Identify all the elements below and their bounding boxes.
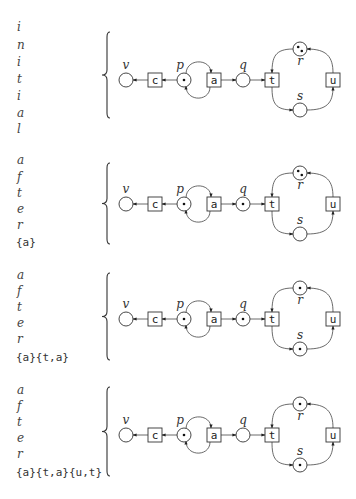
place-label: v bbox=[123, 182, 130, 196]
token bbox=[183, 434, 186, 437]
curly-brace bbox=[102, 387, 110, 476]
token bbox=[301, 50, 304, 53]
transition-label: c bbox=[152, 74, 159, 87]
arc-a-to-p bbox=[186, 210, 210, 222]
place-label: r bbox=[297, 409, 304, 423]
arc-u-to-r bbox=[307, 49, 333, 73]
transition-label: u bbox=[330, 198, 337, 211]
panel-title-letter: e bbox=[17, 431, 24, 445]
panel-title-letter: t bbox=[17, 72, 22, 86]
place-label: q bbox=[239, 413, 247, 427]
arc-t-to-s bbox=[272, 442, 293, 465]
arc-a-to-p bbox=[186, 86, 210, 98]
place-label: s bbox=[297, 444, 303, 458]
transition-a: a bbox=[207, 312, 221, 326]
transition-label: a bbox=[211, 313, 218, 326]
place-label: s bbox=[297, 213, 303, 227]
place-q: q bbox=[236, 413, 250, 442]
token bbox=[299, 464, 302, 467]
transition-a: a bbox=[207, 428, 221, 442]
place-v: v bbox=[119, 413, 133, 442]
token bbox=[183, 79, 186, 82]
place-label: v bbox=[123, 413, 130, 427]
arc-p-to-a bbox=[186, 62, 211, 74]
arc-r-to-t bbox=[272, 404, 293, 428]
panel-title-letter: t bbox=[17, 415, 22, 429]
place-p: p bbox=[176, 58, 191, 87]
curly-brace bbox=[102, 32, 110, 118]
panel-title-letter: i bbox=[17, 89, 21, 103]
firing-sequence: {a}{t,a}{u,t} bbox=[16, 466, 102, 479]
panel-title-letter: a bbox=[17, 153, 24, 167]
arc-u-to-r bbox=[307, 173, 333, 197]
panel-title-letter: i bbox=[17, 55, 21, 69]
arc-s-to-u bbox=[307, 87, 333, 110]
arc-s-to-u bbox=[307, 326, 333, 349]
arc-u-to-r bbox=[307, 288, 333, 312]
panel-title-letter: e bbox=[17, 316, 24, 330]
arc-r-to-t bbox=[272, 49, 293, 73]
arc-r-to-t bbox=[272, 288, 293, 312]
arc-a-to-p bbox=[186, 441, 210, 453]
arc-s-to-u bbox=[307, 211, 333, 234]
token bbox=[183, 318, 186, 321]
panel-title-letter: f bbox=[16, 284, 24, 298]
place-label: q bbox=[239, 58, 247, 72]
firing-sequence: {a} bbox=[16, 236, 36, 249]
panel-after-a-ta-ut: after{a}{t,a}{u,t}vpqrscatu bbox=[16, 383, 340, 479]
place-v: v bbox=[119, 297, 133, 326]
transition-label: c bbox=[152, 429, 159, 442]
place-p: p bbox=[176, 297, 191, 326]
place-s: s bbox=[293, 89, 307, 117]
panel-title-letter: n bbox=[17, 38, 25, 52]
panel-initial: initialvpqrscatu bbox=[17, 20, 340, 136]
arc-t-to-s bbox=[272, 211, 293, 234]
place-label: v bbox=[123, 297, 130, 311]
arc-t-to-s bbox=[272, 326, 293, 349]
firing-sequence: {a}{t,a} bbox=[16, 351, 69, 364]
panel-title-letter: f bbox=[16, 170, 24, 184]
place-q: q bbox=[236, 297, 250, 326]
place-label: p bbox=[176, 58, 184, 72]
place-label: s bbox=[297, 328, 303, 342]
token bbox=[183, 203, 186, 206]
place-p: p bbox=[176, 182, 191, 211]
transition-u: u bbox=[326, 312, 340, 326]
place-label: p bbox=[176, 182, 184, 196]
place-label: q bbox=[239, 182, 247, 196]
arc-a-to-p bbox=[186, 325, 210, 337]
transition-label: u bbox=[330, 313, 337, 326]
transition-label: t bbox=[269, 429, 276, 442]
transition-t: t bbox=[265, 312, 279, 326]
place-r: r bbox=[293, 42, 307, 68]
arc-p-to-a bbox=[186, 301, 211, 313]
token bbox=[299, 287, 302, 290]
arc-r-to-t bbox=[272, 173, 293, 197]
panel-title-letter: r bbox=[17, 218, 24, 232]
transition-label: c bbox=[152, 198, 159, 211]
place-label: q bbox=[239, 297, 247, 311]
arc-p-to-a bbox=[186, 417, 211, 429]
transition-label: c bbox=[152, 313, 159, 326]
place-q: q bbox=[236, 58, 250, 87]
curly-brace bbox=[102, 273, 110, 360]
arc-u-to-r bbox=[307, 404, 333, 428]
transition-label: a bbox=[211, 74, 218, 87]
panel-after-a-ta: after{a}{t,a}vpqrscatu bbox=[16, 268, 340, 364]
place-s: s bbox=[293, 444, 307, 472]
panel-title-letter: a bbox=[17, 383, 24, 397]
transition-a: a bbox=[207, 73, 221, 87]
place-label: v bbox=[123, 58, 130, 72]
place-r: r bbox=[293, 281, 307, 307]
panel-title-letter: t bbox=[17, 186, 22, 200]
transition-t: t bbox=[265, 197, 279, 211]
place-label: r bbox=[297, 54, 304, 68]
arc-t-to-s bbox=[272, 87, 293, 110]
token bbox=[299, 348, 302, 351]
place-s: s bbox=[293, 213, 307, 241]
arc-s-to-u bbox=[307, 442, 333, 465]
place-label: s bbox=[297, 89, 303, 103]
transition-label: t bbox=[269, 74, 276, 87]
place-r: r bbox=[293, 166, 307, 192]
transition-u: u bbox=[326, 428, 340, 442]
